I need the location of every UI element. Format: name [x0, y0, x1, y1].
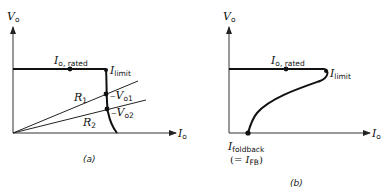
panel-a-r1-label: R1: [74, 92, 87, 105]
panel-a-y-axis-label: Vo: [7, 11, 20, 24]
panel-a-vo1-point: [104, 92, 109, 97]
panel-b-foldback-point: [245, 130, 250, 135]
panel-a-vo2-point: [105, 107, 110, 112]
panel-b-foldback-curve: [248, 69, 327, 133]
panel-a-x-axis-label: Io: [178, 128, 187, 141]
panel-a-vo1-label: –Vo1: [110, 90, 133, 103]
panel-b-caption: (b): [290, 178, 303, 188]
panel-b-x-axis-label: Io: [372, 128, 381, 141]
panel-b-limit-point: [324, 69, 328, 73]
panel-a-vo2-label: –Vo2: [111, 107, 134, 120]
panel-b-foldback-label: Ifoldback: [228, 141, 264, 154]
panel-a-limit-point: [104, 68, 108, 72]
panel-b-y-axis-label: Vo: [223, 11, 236, 24]
panel-a-rated-label: Io, rated: [54, 55, 88, 68]
panel-a-r2-label: R2: [83, 117, 96, 130]
panel-b-foldback-eq-label: (= IFB): [230, 155, 263, 167]
diagram-graphics: [0, 0, 389, 194]
panel-b-graphics: [229, 27, 370, 136]
panel-b-rated-label: Io, rated: [271, 55, 305, 68]
panel-b-limit-label: Ilimit: [330, 68, 351, 81]
panel-a-caption: (a): [83, 154, 96, 164]
foldback-current-limit-diagram: Vo Io Io, rated Ilimit R1 R2 –Vo1 –Vo2 (…: [0, 0, 389, 194]
panel-a-limit-label: Ilimit: [110, 65, 131, 78]
